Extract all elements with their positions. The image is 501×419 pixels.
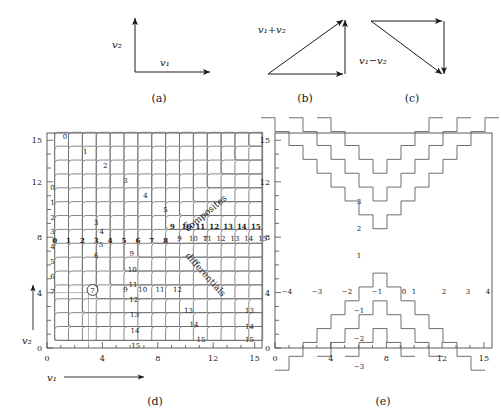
cell-label: 12	[209, 222, 219, 231]
panel-e-ytick-8: 8	[265, 233, 270, 242]
cell-label: 14	[131, 327, 140, 335]
panel-a-caption: (a)	[151, 92, 166, 105]
panel-c-diff-vector	[371, 21, 442, 74]
cell-label: 14	[190, 321, 199, 329]
panel-c-caption: (c)	[405, 92, 420, 105]
panel-d-xtick-0: 0	[44, 354, 49, 363]
level-label-up: 1	[357, 252, 361, 260]
level-label: −1	[372, 288, 382, 296]
level-label-up: 3	[357, 198, 361, 206]
cell-label: 4	[100, 228, 105, 236]
panel-d-highlight-value: 7	[90, 287, 94, 295]
cell-label: 5	[50, 258, 54, 266]
cell-label: 14	[245, 323, 254, 331]
panel-e-ytick-15: 15	[260, 136, 270, 145]
cell-label: 11	[129, 281, 138, 289]
contour-line	[55, 132, 97, 174]
panel-e-x-ticks	[275, 342, 484, 348]
cell-label: 13	[245, 307, 254, 315]
panel-e-y-ticks	[275, 140, 281, 348]
panel-d-ytick-15: 15	[32, 136, 42, 145]
level-label-down: −3	[354, 363, 364, 371]
panel-d-xtick-12: 12	[208, 354, 218, 363]
cell-label: 12	[173, 286, 182, 294]
cell-label: 9	[123, 286, 127, 294]
cell-label: 0	[63, 133, 67, 141]
panel-d-y-label: v₂	[22, 335, 32, 346]
cell-label: 15	[245, 336, 254, 344]
panel-e-ytick-0: 0	[265, 344, 270, 353]
panel-d-ytick-8: 8	[37, 233, 42, 242]
panel-c-vector-label: v₁−v₂	[359, 55, 387, 66]
figure-container: v₂ v₁ (a) v₁+v₂ (b) v₁−v₂ (c)	[0, 0, 501, 419]
cell-label: 15	[251, 222, 261, 231]
panel-d-composites-label: composites	[183, 193, 229, 234]
level-label-up: 2	[357, 225, 361, 233]
cell-label: 6	[94, 252, 99, 260]
level-label-down: −1	[354, 307, 364, 315]
contour-line	[110, 133, 262, 285]
panel-e: 0 4 8 12 15 0 4 8 12 15 −4−3−2−101234123…	[260, 118, 499, 408]
panel-e-caption: (e)	[375, 395, 390, 408]
panel-a: v₂ v₁ (a)	[112, 18, 210, 105]
level-label: 3	[466, 288, 470, 296]
cell-label: 2	[80, 236, 85, 245]
cell-label: 6	[135, 236, 140, 245]
level-label: 0	[402, 288, 406, 296]
cell-label: 15	[197, 336, 206, 344]
cell-label: 8	[163, 236, 168, 245]
cell-label: 5	[122, 236, 127, 245]
panel-d-ytick-4: 4	[37, 289, 42, 298]
panel-e-plot-frame	[275, 133, 492, 348]
panel-d-xtick-8: 8	[155, 354, 160, 363]
level-label-down: −2	[354, 335, 364, 343]
panel-e-xtick-0: 0	[272, 354, 277, 363]
cell-label: 13	[230, 235, 239, 243]
cell-label: 3	[94, 219, 98, 227]
cell-label: 2	[103, 162, 107, 170]
cell-label: 14	[237, 222, 247, 231]
panel-e-xtick-15: 15	[479, 354, 489, 363]
panel-b-caption: (b)	[297, 92, 313, 105]
panel-b: v₁+v₂ (b)	[258, 20, 345, 105]
panel-a-x-label: v₁	[160, 57, 170, 68]
level-label: −4	[282, 288, 293, 296]
panel-d-x-ticks	[47, 342, 255, 348]
cell-label: 1	[83, 148, 87, 156]
contour-line	[55, 132, 124, 201]
cell-label: 15	[131, 342, 140, 350]
panel-e-xtick-12: 12	[437, 354, 447, 363]
cell-label: 1	[66, 236, 71, 245]
level-label: 2	[442, 288, 446, 296]
level-label: −2	[342, 288, 352, 296]
cell-label: 3	[123, 177, 127, 185]
cell-label: 9	[170, 222, 175, 231]
cell-label: 12	[217, 235, 226, 243]
panel-d-highlight-marker: 7	[87, 285, 98, 296]
panel-e-contour-layer	[261, 118, 499, 370]
level-label: 1	[412, 288, 416, 296]
contour-line	[55, 132, 208, 285]
level-label: −3	[312, 288, 322, 296]
cell-label: 5	[163, 206, 167, 214]
panel-d-xtick-15: 15	[250, 354, 260, 363]
cell-label: 10	[128, 266, 137, 274]
cell-label: 1	[50, 199, 54, 207]
cell-label: 7	[204, 235, 208, 243]
panel-d-ytick-0: 0	[37, 344, 42, 353]
contour-line	[193, 133, 262, 202]
cell-label: 7	[50, 288, 54, 296]
cell-label: 10	[138, 286, 147, 294]
panel-d-xtick-4: 4	[100, 354, 105, 363]
panel-e-xtick-8: 8	[384, 354, 389, 363]
contour-line	[55, 132, 180, 257]
cell-label: 14	[244, 235, 253, 243]
cell-label: 0	[50, 184, 54, 192]
contour-line	[221, 133, 262, 174]
level-label: 4	[486, 288, 491, 296]
panel-d-caption: (d)	[147, 395, 163, 408]
cell-label: 9	[177, 235, 181, 243]
cell-label: 5	[99, 241, 103, 249]
contour-line	[221, 299, 263, 341]
panel-c: v₁−v₂ (c)	[359, 21, 444, 105]
